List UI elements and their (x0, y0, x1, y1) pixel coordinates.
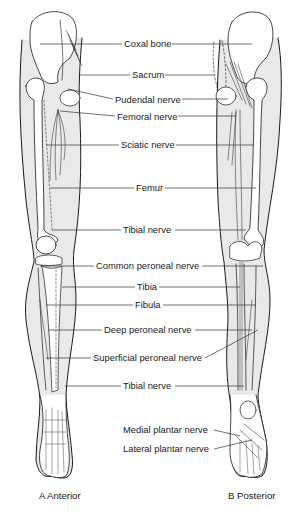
label-tibia: Tibia (136, 281, 158, 292)
label-common-peroneal-nerve: Common peroneal nerve (95, 260, 200, 271)
anterior-leg-drawing (20, 12, 82, 478)
label-sacrum: Sacrum (131, 69, 165, 80)
label-fibula: Fibula (134, 299, 162, 310)
anterior-foot (39, 395, 69, 478)
label-femoral-nerve: Femoral nerve (116, 111, 178, 122)
label-pudendal-nerve: Pudendal nerve (114, 94, 182, 105)
caption-posterior: B Posterior (228, 490, 275, 501)
label-tibial-nerve-lower: Tibial nerve (122, 380, 172, 391)
label-coxal-bone: Coxal bone (123, 38, 172, 49)
lower-limb-nerve-diagram: Coxal bone Sacrum Pudendal nerve Femoral… (0, 0, 294, 516)
caption-anterior: A Anterior (39, 490, 81, 501)
label-lateral-plantar-nerve: Lateral plantar nerve (122, 443, 210, 454)
label-deep-peroneal-nerve: Deep peroneal nerve (103, 324, 193, 335)
label-femur: Femur (135, 182, 164, 193)
label-sciatic-nerve: Sciatic nerve (120, 139, 176, 150)
label-superficial-peroneal-nerve: Superficial peroneal nerve (92, 352, 203, 363)
label-tibial-nerve-upper: Tibial nerve (122, 224, 172, 235)
posterior-leg-drawing (213, 12, 281, 478)
label-medial-plantar-nerve: Medial plantar nerve (122, 424, 209, 435)
